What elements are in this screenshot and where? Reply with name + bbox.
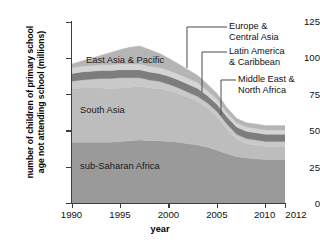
x-tick-label-1995: 1995 [100,209,140,220]
y-tick-label-100: 100 [292,52,320,63]
x-tick-mark-2010 [265,203,266,208]
x-tick-label-2000: 2000 [148,209,188,220]
y-axis-title-line2: age not attending school (millions) [36,31,47,173]
x-axis-title: year [0,224,320,234]
y-tick-label-75: 75 [292,89,320,100]
callout-latin-america-caribbean-line2: & Caribbean [229,57,285,68]
y-axis-title: number of children of primary school age… [20,2,52,202]
x-tick-label-2012: 2012 [276,209,316,220]
callout-europe-central-asia-line1: Europe & [229,21,279,32]
callout-middle-east-north-africa-line1: Middle East & [238,74,295,85]
callout-latin-america-caribbean-line1: Latin America [229,46,285,57]
y-tick-label-0: 0 [292,198,320,209]
x-axis-line [71,203,285,204]
y-tick-label-125: 125 [292,16,320,27]
x-tick-mark-1990 [72,203,73,208]
callout-middle-east-north-africa-line2: North Africa [238,85,295,96]
x-tick-mark-2005 [217,203,218,208]
series-label-sub-saharan-africa: sub-Saharan Africa [80,160,160,171]
callout-latin-america-caribbean: Latin America & Caribbean [229,46,285,67]
callout-middle-east-north-africa: Middle East & North Africa [238,74,295,95]
callout-europe-central-asia: Europe & Central Asia [229,21,279,42]
y-tick-label-25: 25 [292,162,320,173]
y-tick-label-50: 50 [292,125,320,136]
chart-figure: number of children of primary school age… [0,0,320,246]
x-tick-mark-2000 [168,203,169,208]
y-axis-title-line1: number of children of primary school [25,26,36,178]
x-tick-mark-1995 [120,203,121,208]
x-tick-mark-2012 [285,203,286,208]
x-tick-label-1990: 1990 [52,209,92,220]
series-label-south-asia: South Asia [80,104,125,115]
y-axis-line [71,21,72,204]
callout-europe-central-asia-line2: Central Asia [229,32,279,43]
series-label-east-asia-pacific: East Asia & Pacific [86,54,164,65]
x-tick-label-2005: 2005 [197,209,237,220]
